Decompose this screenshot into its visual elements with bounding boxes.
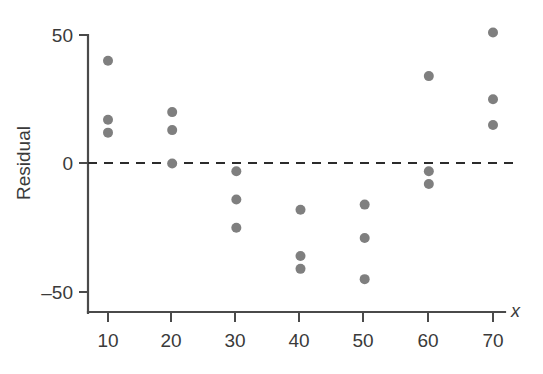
data-point xyxy=(231,194,241,204)
y-axis-title: Residual xyxy=(13,126,34,200)
data-point xyxy=(424,71,434,81)
x-tick-label-10: 10 xyxy=(97,330,118,351)
data-point xyxy=(296,251,306,261)
data-point xyxy=(167,159,177,169)
y-tick-label-0: 0 xyxy=(62,153,73,174)
data-point xyxy=(488,120,498,130)
residual-plot-figure: 50 0 –50 Residual 10 20 30 40 50 60 70 x xyxy=(0,0,543,374)
data-point xyxy=(296,205,306,215)
y-tick-label-minus-50: –50 xyxy=(41,282,73,303)
x-tick-label-40: 40 xyxy=(288,330,309,351)
x-tick-label-60: 60 xyxy=(417,330,438,351)
data-point xyxy=(296,264,306,274)
data-point xyxy=(103,56,113,66)
x-axis-title: x xyxy=(510,301,521,321)
data-point xyxy=(488,94,498,104)
data-point xyxy=(167,107,177,117)
data-point xyxy=(424,179,434,189)
data-point xyxy=(488,27,498,37)
x-tick-label-20: 20 xyxy=(160,330,181,351)
data-point xyxy=(360,274,370,284)
data-point xyxy=(103,128,113,138)
data-point xyxy=(360,233,370,243)
data-point xyxy=(424,166,434,176)
data-point xyxy=(231,166,241,176)
chart-background xyxy=(0,0,543,374)
data-point xyxy=(231,223,241,233)
data-point xyxy=(167,125,177,135)
x-tick-label-50: 50 xyxy=(352,330,373,351)
data-point xyxy=(360,200,370,210)
residual-scatter-chart: 50 0 –50 Residual 10 20 30 40 50 60 70 x xyxy=(0,0,543,374)
x-tick-label-70: 70 xyxy=(482,330,503,351)
data-point xyxy=(103,115,113,125)
x-tick-label-30: 30 xyxy=(224,330,245,351)
y-tick-label-50: 50 xyxy=(52,25,73,46)
